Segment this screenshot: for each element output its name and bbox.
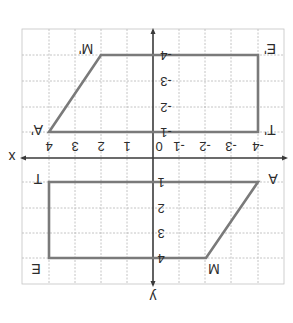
x-tick: -1: [173, 139, 185, 154]
origin-tick: 0: [155, 139, 162, 154]
x-tick: 1: [123, 139, 130, 154]
x-tick: 2: [97, 139, 104, 154]
x-tick: -4: [252, 139, 264, 154]
vertex-label-t-prime: T': [264, 122, 275, 138]
x-tick: -2: [199, 139, 211, 154]
x-axis-arrow-left-icon: [20, 156, 26, 161]
y-axis-label: y: [150, 289, 157, 305]
coordinate-plane-figure: x y -4 -3 -2 -1 0 1 2 3 4 -1 -2 -3 -4 1 …: [0, 0, 293, 323]
coordinate-plane-svg: x y -4 -3 -2 -1 0 1 2 3 4 -1 -2 -3 -4 1 …: [0, 0, 293, 323]
vertex-label-m: M: [208, 261, 220, 277]
y-tick: 3: [157, 226, 164, 241]
y-tick: 1: [157, 175, 164, 190]
x-tick: 4: [45, 139, 52, 154]
vertex-label-t: T: [33, 171, 42, 187]
y-tick: -4: [160, 48, 172, 63]
vertex-label-e: E: [31, 261, 40, 277]
vertex-label-a: A: [268, 171, 278, 187]
x-axis-arrow-right-icon: [282, 156, 288, 161]
x-axis: [20, 156, 288, 161]
y-tick: 4: [157, 251, 164, 266]
y-tick: 2: [157, 201, 164, 216]
vertex-label-m-prime: M': [79, 41, 93, 57]
y-tick: -3: [160, 74, 172, 89]
vertex-label-a-prime: A': [31, 122, 43, 138]
vertex-label-e-prime: E': [264, 41, 276, 57]
x-tick: -3: [225, 139, 237, 154]
y-tick: -2: [160, 100, 172, 115]
x-axis-label: x: [9, 149, 16, 165]
y-tick: -1: [160, 125, 172, 140]
x-tick: 3: [71, 139, 78, 154]
